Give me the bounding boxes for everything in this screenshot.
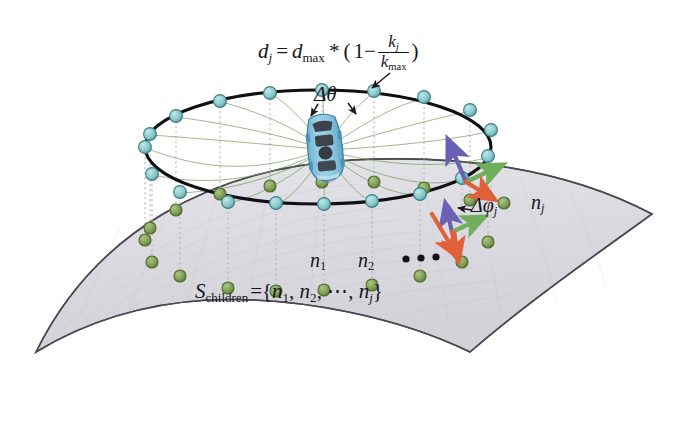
ground-node [170,204,182,216]
ring-node [414,188,427,201]
ground-node [146,256,158,268]
distance-formula-label: dj=dmax*(1−kjkmax) [258,34,418,73]
set-item-j: nj [359,279,373,303]
ring-node [318,198,331,211]
ring-node [270,197,283,210]
ring-node [174,186,187,199]
ring-node [366,195,379,208]
ground-node [482,236,494,248]
set-sep-1: , [289,279,300,303]
node-j-label: nj [531,192,544,215]
node-1-label: n1 [310,250,326,273]
ground-node-j [498,197,510,209]
diagram-canvas: dj=dmax*(1−kjkmax) Δθ Δφj nj n1 n2 Schil… [0,0,679,427]
set-equals-open: ={ [248,279,272,303]
ring-node [482,150,495,163]
node-2-label: n2 [358,250,374,273]
ground-node [368,176,380,188]
formula-fraction: kjkmax [378,33,410,72]
set-close-brace: } [373,279,383,303]
children-set-label: Schildren={n1, n2, ⋯, nj} [195,281,383,304]
ground-node [139,234,151,246]
formula-times: * [325,39,344,63]
formula-one-minus: 1− [350,39,377,63]
ring-node [146,168,159,181]
ring-node [464,104,477,117]
ring-node [222,196,235,209]
ring-node [418,91,431,104]
ground-node [414,270,426,282]
saddle-surface [36,159,652,352]
formula-equals: = [272,39,292,63]
ring-node [144,128,157,141]
fraction-numerator: kj [378,33,410,52]
set-item-1: n1 [272,279,289,303]
ring-node [139,141,152,154]
set-symbol: Schildren [195,279,248,303]
ground-node [174,270,186,282]
formula-lhs: dj [258,39,272,63]
ring-node [170,110,183,123]
ring-node [264,87,277,100]
ground-node [144,222,156,234]
set-sep-2: , ⋯, [317,279,359,303]
leader-arrow-formula [372,73,390,88]
ring-node [214,95,227,108]
ring-node [485,124,498,137]
formula-rhs-dmax: dmax [292,39,325,63]
formula-close-paren: ) [409,39,418,63]
fraction-denominator: kmax [378,52,410,72]
delta-theta-label: Δθ [314,84,337,105]
set-item-2: n2 [300,279,317,303]
surface-sheet [36,159,652,352]
ground-node [264,180,276,192]
delta-phi-label: Δφj [471,195,497,218]
